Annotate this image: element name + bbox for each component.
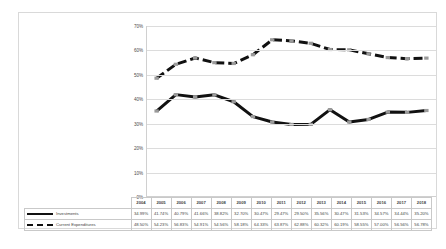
table-cell-value: 57.00% bbox=[371, 220, 391, 231]
table-cell-value: 34.99% bbox=[131, 209, 151, 220]
table-header-year: 2016 bbox=[371, 198, 391, 209]
legend-label: Investments bbox=[56, 211, 79, 216]
table-cell-value: 58.55% bbox=[351, 220, 371, 231]
table-header-year: 2013 bbox=[311, 198, 331, 209]
data-point bbox=[154, 109, 158, 112]
table-cell-value: 35.20% bbox=[411, 209, 431, 220]
table-cell-value: 58.18% bbox=[231, 220, 251, 231]
y-axis-tick-labels: 0%10%20%30%40%50%60%70% bbox=[128, 26, 146, 197]
legend-line-swatch bbox=[27, 213, 53, 215]
legend-label: Current Expenditures bbox=[56, 222, 96, 227]
table-cell-value: 40.79% bbox=[171, 209, 191, 220]
data-point bbox=[212, 93, 216, 96]
table-header-year: 2012 bbox=[291, 198, 311, 209]
table-header-year: 2017 bbox=[391, 198, 411, 209]
table-row: Current Expenditures48.50%54.23%56.83%54… bbox=[25, 220, 432, 231]
y-tick-label: 70% bbox=[134, 24, 143, 29]
data-point bbox=[424, 57, 428, 60]
table-header-row: 2004200520062007200820092010201120122013… bbox=[25, 198, 432, 209]
table-header-year: 2009 bbox=[231, 198, 251, 209]
table-cell-value: 29.47% bbox=[271, 209, 291, 220]
table-header-year: 2014 bbox=[331, 198, 351, 209]
series-lines bbox=[147, 26, 436, 196]
table-cell-value: 56.83% bbox=[171, 220, 191, 231]
table-row: Investments34.99%41.74%40.79%41.66%38.82… bbox=[25, 209, 432, 220]
legend-entry: Investments bbox=[25, 209, 132, 220]
data-point bbox=[174, 93, 178, 96]
table-cell-value: 60.32% bbox=[311, 220, 331, 231]
data-point bbox=[212, 61, 216, 64]
table-header-year: 2018 bbox=[411, 198, 431, 209]
y-tick-label: 40% bbox=[134, 97, 143, 102]
gridline bbox=[147, 50, 436, 51]
gridline bbox=[147, 75, 436, 76]
data-point bbox=[366, 118, 370, 121]
table-cell-value: 29.50% bbox=[291, 209, 311, 220]
table-corner-cell bbox=[25, 198, 132, 209]
plot-area-wrapper: 0%10%20%30%40%50%60%70% bbox=[128, 26, 436, 197]
data-point bbox=[289, 39, 293, 42]
table-cell-value: 30.47% bbox=[331, 209, 351, 220]
data-point bbox=[251, 53, 255, 56]
plot-area bbox=[146, 26, 436, 197]
data-point bbox=[270, 38, 274, 41]
data-point bbox=[386, 56, 390, 59]
y-tick-label: 20% bbox=[134, 146, 143, 151]
data-point bbox=[405, 111, 409, 114]
table-cell-value: 41.66% bbox=[191, 209, 211, 220]
table-cell-value: 56.78% bbox=[411, 220, 431, 231]
data-table-wrapper: 2004200520062007200820092010201120122013… bbox=[24, 197, 432, 224]
table-header-year: 2006 bbox=[171, 198, 191, 209]
data-point bbox=[193, 95, 197, 98]
table-cell-value: 54.23% bbox=[151, 220, 171, 231]
data-point bbox=[232, 62, 236, 65]
table-cell-value: 30.47% bbox=[251, 209, 271, 220]
table-cell-value: 64.33% bbox=[251, 220, 271, 231]
table-header-year: 2015 bbox=[351, 198, 371, 209]
legend-line-swatch bbox=[27, 224, 53, 226]
table-cell-value: 41.74% bbox=[151, 209, 171, 220]
data-point bbox=[405, 57, 409, 60]
data-point bbox=[309, 42, 313, 45]
table-header-year: 2010 bbox=[251, 198, 271, 209]
gridline bbox=[147, 124, 436, 125]
data-point bbox=[366, 52, 370, 55]
table-cell-value: 35.56% bbox=[311, 209, 331, 220]
table-cell-value: 60.19% bbox=[331, 220, 351, 231]
table-cell-value: 31.53% bbox=[351, 209, 371, 220]
table-cell-value: 62.88% bbox=[291, 220, 311, 231]
y-tick-label: 30% bbox=[134, 121, 143, 126]
y-tick-label: 10% bbox=[134, 170, 143, 175]
data-table: 2004200520062007200820092010201120122013… bbox=[24, 197, 432, 231]
table-cell-value: 34.57% bbox=[371, 209, 391, 220]
gridline bbox=[147, 148, 436, 149]
table-cell-value: 63.87% bbox=[271, 220, 291, 231]
table-header-year: 2007 bbox=[191, 198, 211, 209]
data-point bbox=[232, 100, 236, 103]
gridline bbox=[147, 173, 436, 174]
data-point bbox=[328, 108, 332, 111]
table-cell-value: 34.44% bbox=[391, 209, 411, 220]
table-body: Investments34.99%41.74%40.79%41.66%38.82… bbox=[25, 209, 432, 231]
table-cell-value: 32.70% bbox=[231, 209, 251, 220]
data-point bbox=[386, 110, 390, 113]
chart-frame: 0%10%20%30%40%50%60%70% 2004200520062007… bbox=[18, 12, 437, 229]
data-point bbox=[424, 109, 428, 112]
y-tick-label: 60% bbox=[134, 48, 143, 53]
gridline bbox=[147, 99, 436, 100]
gridline bbox=[147, 26, 436, 27]
data-point bbox=[174, 63, 178, 66]
table-header-year: 2008 bbox=[211, 198, 231, 209]
table-header-year: 2005 bbox=[151, 198, 171, 209]
data-point bbox=[251, 115, 255, 118]
data-point bbox=[193, 56, 197, 59]
table-cell-value: 56.56% bbox=[391, 220, 411, 231]
table-cell-value: 48.50% bbox=[131, 220, 151, 231]
table-header-year: 2004 bbox=[131, 198, 151, 209]
table-cell-value: 38.82% bbox=[211, 209, 231, 220]
legend-entry: Current Expenditures bbox=[25, 220, 132, 231]
table-cell-value: 54.56% bbox=[211, 220, 231, 231]
y-tick-label: 50% bbox=[134, 72, 143, 77]
data-point bbox=[154, 77, 158, 80]
table-header-year: 2011 bbox=[271, 198, 291, 209]
